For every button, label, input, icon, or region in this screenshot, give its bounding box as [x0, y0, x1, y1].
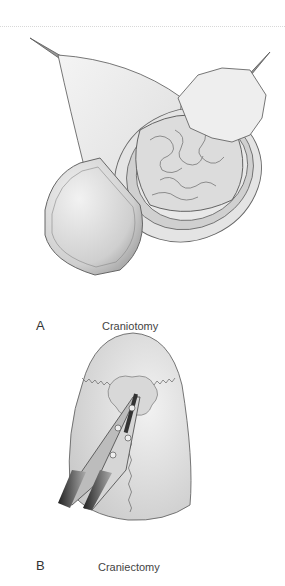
- craniectomy-illustration: [0, 330, 285, 560]
- panel-b-caption: Craniectomy: [98, 561, 160, 573]
- panel-b-letter: B: [36, 558, 45, 573]
- craniotomy-illustration: [0, 0, 285, 330]
